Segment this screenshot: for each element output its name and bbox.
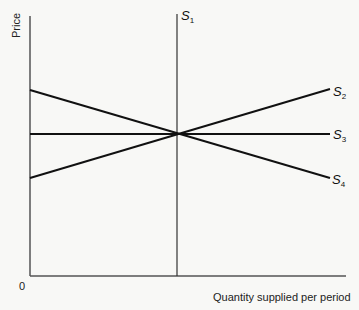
supply-curves-chart: Price Quantity supplied per period 0 S1 … [0, 0, 359, 310]
y-axis-label: Price [10, 13, 22, 38]
label-s2: S2 [333, 84, 347, 101]
origin-label: 0 [19, 280, 25, 292]
label-s3: S3 [333, 127, 347, 144]
x-axis-label: Quantity supplied per period [213, 291, 351, 303]
label-s1: S1 [181, 8, 195, 25]
label-s4: S4 [332, 172, 346, 189]
